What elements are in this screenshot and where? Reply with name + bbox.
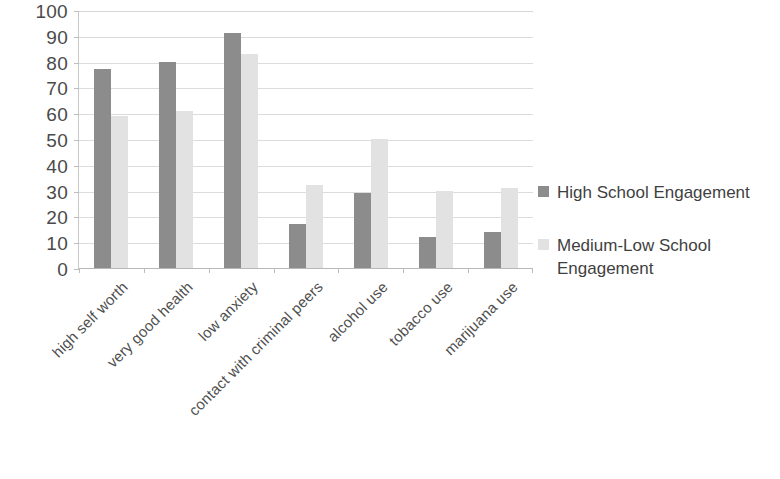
y-tick-label: 70 [46, 79, 68, 98]
bar-group [144, 11, 209, 268]
y-tick-label: 10 [46, 234, 68, 253]
bar-chart: 1009080706050403020100 high self worthve… [0, 0, 780, 479]
x-axis-labels: high self worthvery good healthlow anxie… [78, 272, 533, 402]
bar [354, 193, 371, 268]
legend-item[interactable]: Medium-Low School Engagement [538, 235, 778, 281]
bar-group [468, 11, 533, 268]
x-tick-label: marijuana use [226, 278, 521, 479]
y-tick-label: 40 [46, 156, 68, 175]
y-tick-label: 80 [46, 53, 68, 72]
y-tick-label: 0 [57, 260, 68, 279]
y-tick-label: 100 [35, 2, 68, 21]
bar-group [338, 11, 403, 268]
bar-group [209, 11, 274, 268]
bar [501, 188, 518, 268]
bar [241, 54, 258, 268]
legend-swatch-icon [538, 239, 549, 250]
y-tick-label: 20 [46, 208, 68, 227]
bar [419, 237, 436, 268]
y-tick-label: 30 [46, 182, 68, 201]
bar [159, 62, 176, 268]
bar [484, 232, 501, 268]
legend-swatch-icon [538, 186, 549, 197]
bar-group [403, 11, 468, 268]
bar-group [79, 11, 144, 268]
y-tick-label: 50 [46, 131, 68, 150]
bar [224, 33, 241, 268]
plot-area [78, 11, 533, 269]
y-tick-label: 90 [46, 27, 68, 46]
bars-layer [79, 11, 533, 268]
y-axis: 1009080706050403020100 [0, 0, 72, 275]
bar [176, 111, 193, 268]
bar [94, 69, 111, 268]
legend-label: Medium-Low School Engagement [557, 235, 753, 281]
bar [111, 116, 128, 268]
bar [289, 224, 306, 268]
bar [436, 191, 453, 268]
bar [371, 139, 388, 268]
chart-legend: High School EngagementMedium-Low School … [538, 182, 778, 311]
y-tick-label: 60 [46, 105, 68, 124]
legend-item[interactable]: High School Engagement [538, 182, 778, 205]
legend-label: High School Engagement [557, 182, 750, 205]
bar [306, 185, 323, 268]
bar-group [274, 11, 339, 268]
